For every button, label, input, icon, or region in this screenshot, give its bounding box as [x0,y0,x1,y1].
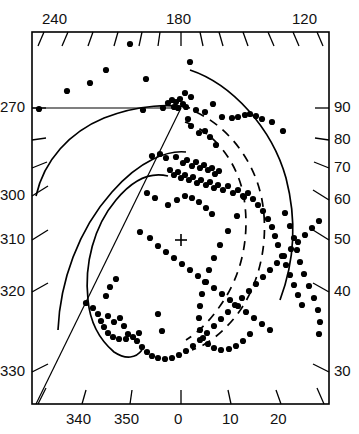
data-point [90,305,96,311]
axis-label-right-30: 30 [334,362,351,379]
data-point [182,90,188,96]
data-point [246,288,252,294]
plot-frame [32,32,329,404]
data-point [274,260,280,266]
data-point [159,328,165,334]
data-point [218,347,224,353]
axis-label-left-330: 330 [0,362,25,379]
data-point [269,119,275,125]
data-point [259,116,265,122]
data-point [173,154,179,160]
data-point [317,319,323,325]
data-point [250,196,256,202]
data-point [190,174,196,180]
figure-container: 240 180 120 270 300 310 320 330 90 80 70… [0,0,359,434]
data-point [176,352,182,358]
axis-label-top-240: 240 [42,10,67,27]
data-point [157,151,163,157]
data-point [117,315,123,321]
data-point [239,295,245,301]
data-point [121,323,127,329]
data-point [171,255,177,261]
data-point [202,279,208,285]
axis-label-bottom-10: 10 [222,410,239,427]
top-axis-ticks [38,32,323,46]
data-point [253,281,259,287]
data-point [98,318,104,324]
data-point [243,309,249,315]
plot-canvas [0,0,359,434]
data-point [105,330,111,336]
data-point [196,199,202,205]
data-point [125,331,131,337]
data-point [182,193,188,199]
data-point [207,134,213,140]
data-point [287,223,293,229]
data-point [309,225,315,231]
axis-label-right-50: 50 [334,230,351,247]
data-point [167,167,173,173]
data-point [272,233,278,239]
data-point [193,159,199,165]
data-point [197,337,203,343]
data-point [184,157,190,163]
data-point [225,309,231,315]
data-point [288,246,294,252]
data-point [174,197,180,203]
data-point [210,101,216,107]
data-point [234,213,240,219]
data-point [155,243,161,249]
data-point [149,153,155,159]
data-point [183,104,189,110]
data-point [229,115,235,121]
data-point [197,327,203,333]
data-point [188,123,194,129]
data-point [163,249,169,255]
data-point [253,113,259,119]
data-point [113,276,119,282]
data-point [155,311,161,317]
data-point [87,80,93,86]
data-point [265,216,271,222]
data-point [187,267,193,273]
data-point [206,267,212,273]
data-point [260,208,266,214]
data-point [247,331,253,337]
data-point [232,302,238,308]
data-point [291,282,297,288]
data-point [101,324,107,330]
data-point [107,284,113,290]
data-point [315,307,321,313]
center-cross-marker [175,234,187,246]
data-point [267,267,273,273]
data-point [302,232,308,238]
data-point [179,261,185,267]
data-point [213,142,219,148]
outer-solid-arc-left [36,106,190,196]
data-point [291,235,297,241]
data-point [127,41,133,47]
data-point [235,187,241,193]
data-point [182,172,188,178]
data-point [219,291,225,297]
spiral-arcs-dashed [185,112,264,350]
data-point [165,202,171,208]
data-point [233,343,239,349]
axis-label-right-60: 60 [334,190,351,207]
data-point [316,218,322,224]
data-point [226,346,232,352]
data-point [211,285,217,291]
data-point [139,344,145,350]
data-point [301,271,307,277]
axis-label-bottom-0: 0 [174,410,182,427]
data-point [110,334,116,340]
axis-label-right-80: 80 [334,130,351,147]
data-point [134,338,140,344]
data-point [116,336,122,342]
data-point [306,283,312,289]
data-point [202,109,208,115]
data-point [64,88,70,94]
axis-label-bottom-20: 20 [270,410,287,427]
data-point [235,114,241,120]
axis-label-top-120: 120 [292,10,317,27]
